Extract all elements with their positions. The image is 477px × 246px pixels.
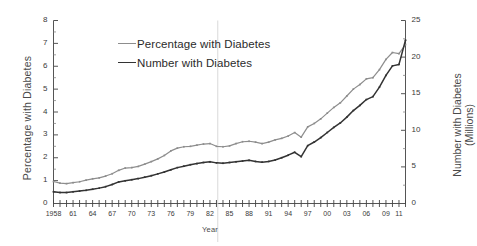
y-axis-right-tick-label: 5 xyxy=(412,161,436,170)
x-axis-tick-label: 11 xyxy=(381,210,417,217)
y-axis-left-tick-label: 5 xyxy=(24,84,48,93)
y-axis-right-tick-label: 15 xyxy=(412,88,436,97)
y-axis-left-tick-label: 8 xyxy=(24,15,48,24)
x-axis-title: Year xyxy=(202,225,218,234)
y-axis-left-tick-label: 6 xyxy=(24,61,48,70)
legend-line-swatch-number xyxy=(118,58,136,68)
y-axis-left-tick-label: 0 xyxy=(24,198,48,207)
legend-line-swatch-percentage xyxy=(118,39,136,49)
y-axis-left-tick-label: 1 xyxy=(24,175,48,184)
y-axis-right-tick-label: 25 xyxy=(412,15,436,24)
y-axis-left-tick-label: 3 xyxy=(24,129,48,138)
y-axis-right-title-line1: Number with Diabetes xyxy=(451,40,463,210)
y-axis-right-tick-label: 10 xyxy=(412,125,436,134)
y-axis-right-tick-label: 20 xyxy=(412,52,436,61)
legend-label-number: Number with Diabetes xyxy=(137,57,252,69)
y-axis-right-title: Number with Diabetes (Millions) xyxy=(451,40,477,210)
legend-item-number: Number with Diabetes xyxy=(118,57,252,69)
y-axis-left-tick-label: 7 xyxy=(24,38,48,47)
y-axis-left-tick-label: 2 xyxy=(24,152,48,161)
y-axis-left-tick-label: 4 xyxy=(24,107,48,116)
y-axis-right-title-line2: (Millions) xyxy=(463,40,475,210)
legend-item-percentage: Percentage with Diabetes xyxy=(118,38,270,50)
y-axis-right-tick-label: 0 xyxy=(412,198,436,207)
legend-label-percentage: Percentage with Diabetes xyxy=(137,38,270,50)
